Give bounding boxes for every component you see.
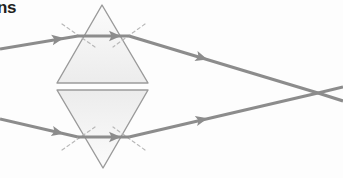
upper-refracted-ray [129, 36, 318, 93]
lower-prism [57, 90, 148, 168]
upper-ray-continuation [318, 93, 343, 101]
lower-ray-continuation [318, 87, 343, 93]
prism-refraction-figure: ns [0, 0, 343, 178]
light-rays-group [0, 36, 343, 137]
lower-incident-ray [0, 119, 78, 137]
upper-prism [57, 5, 148, 83]
ray-diagram-canvas [0, 0, 343, 178]
lower-refracted-ray [129, 93, 318, 137]
upper-incident-ray [0, 36, 78, 49]
prism-group [57, 5, 148, 168]
